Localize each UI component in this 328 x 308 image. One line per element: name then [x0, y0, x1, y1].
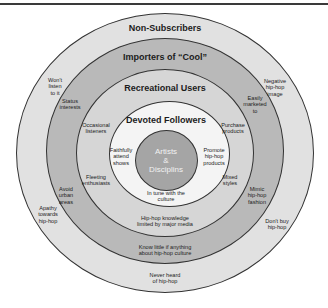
top-rule: [0, 3, 328, 5]
title-devoted-followers: Devoted Followers: [126, 115, 206, 125]
note-dont-buy: Don't buyhip-hop: [265, 218, 288, 231]
title-recreational-users: Recreational Users: [124, 83, 206, 93]
note-easily-marketed: Easilymarketedto: [243, 95, 266, 114]
note-negative-image: Negativehip-hopimage: [264, 78, 286, 97]
note-promote-products: Promotehip-hopproducts: [203, 147, 224, 166]
note-mixed-styles: Mixedstyles: [223, 174, 238, 187]
note-know-little: Know little if anythingabout hip-hop cul…: [139, 244, 192, 257]
title-importers-of-cool: Importers of “Cool”: [123, 52, 207, 62]
note-occasional-listeners: Occasionallisteners: [82, 122, 110, 135]
note-purchase-products: Purchaseproducts: [221, 122, 245, 135]
note-never-heard: Never heardof hip-hop: [150, 272, 181, 285]
core-label: Artists & Disciplins: [149, 147, 183, 175]
note-status-interests: Statusinterests: [59, 98, 80, 111]
note-faithfully-attend: Faithfullyattendshows: [110, 147, 132, 166]
note-mimic-fashion: Mimichip-hopfashion: [248, 186, 267, 205]
note-fleeting-enthusiasts: Fleetingenthusiasts: [82, 174, 110, 187]
note-wont-listen: Won'tlistento it: [48, 77, 62, 96]
title-non-subscribers: Non-Subscribers: [129, 23, 202, 33]
note-knowledge-limited: Hip-hop knowledgelimited by major media: [137, 215, 193, 228]
note-in-tune: In tune with theculture: [147, 190, 185, 203]
note-avoid-urban: Avoidurbanareas: [59, 186, 73, 205]
note-apathy: Apathytowardship-hop: [38, 205, 58, 224]
